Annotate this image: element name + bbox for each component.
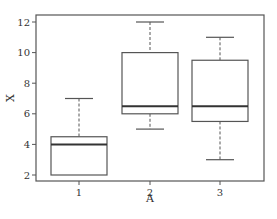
x-tick-label: 1 bbox=[76, 187, 82, 198]
box-group-3 bbox=[192, 37, 248, 159]
y-tick-label: 8 bbox=[24, 78, 30, 89]
y-axis: 24681012 bbox=[17, 17, 36, 181]
x-axis-label: A bbox=[145, 192, 155, 205]
box-iqr bbox=[192, 60, 248, 121]
y-tick-label: 10 bbox=[17, 47, 30, 58]
y-tick-label: 6 bbox=[24, 108, 30, 119]
boxes bbox=[51, 22, 248, 175]
y-tick-label: 4 bbox=[24, 139, 30, 150]
y-tick-label: 12 bbox=[17, 17, 30, 28]
box-group-1 bbox=[51, 99, 107, 176]
box-group-2 bbox=[122, 22, 178, 129]
box-iqr bbox=[51, 137, 107, 175]
x-tick-label: 3 bbox=[217, 187, 223, 198]
y-axis-label: X bbox=[4, 94, 17, 102]
box-plot: 24681012 123 A X bbox=[0, 0, 277, 219]
y-tick-label: 2 bbox=[24, 170, 30, 181]
box-iqr bbox=[122, 53, 178, 114]
